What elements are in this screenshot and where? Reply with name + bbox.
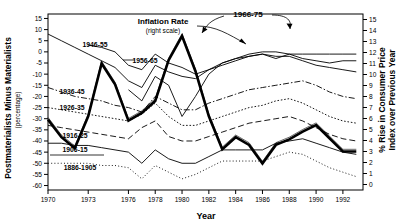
y-tick-label-right: 10	[369, 71, 377, 78]
y-tick-label-left: -60	[32, 182, 42, 189]
y-tick-label-left: -10	[32, 71, 42, 78]
y-axis-left: 151050-5-10-15-20-25-30-35-40-45-50-55-6…	[32, 15, 48, 189]
y-tick-label-left: -15	[32, 82, 42, 89]
y-tick-label-left: -35	[32, 126, 42, 133]
y-tick-label-left: -50	[32, 160, 42, 167]
x-tick-label: 1982	[202, 196, 217, 203]
y-tick-label-left: 5	[38, 37, 42, 44]
series-labels-layer: 1946-551956-651936-451926-351916-251906-…	[50, 41, 158, 171]
y-tick-label-right: 8	[369, 93, 373, 100]
x-tick-label: 1978	[148, 196, 163, 203]
inflation-rate-arrowhead-icon	[239, 39, 246, 45]
cohort-1966-75-arrow-right-icon	[272, 15, 290, 29]
inflation-rate-annotation-sublabel: (right scale)	[146, 27, 180, 35]
annotations-layer: Inflation Rate (right scale) 1966-75	[138, 10, 293, 44]
y-tick-label-left: -25	[32, 104, 42, 111]
x-tick-label: 1990	[309, 196, 324, 203]
series-line-1906-15	[48, 139, 356, 164]
cohort-1966-75-annotation-label: 1966-75	[233, 10, 263, 19]
x-tick-label: 1973	[81, 196, 96, 203]
x-tick-label: 1976	[121, 196, 136, 203]
series-label-1916-25: 1916-25	[63, 132, 88, 139]
x-tick-label: 1970	[41, 196, 56, 203]
series-label-1886-1905: 1886-1905	[64, 164, 97, 171]
y-axis-left-subtitle: (percentage)	[14, 92, 22, 129]
series-label-1936-45: 1936-45	[60, 88, 85, 95]
cohort-1966-75-arrowhead-right-icon	[287, 24, 293, 30]
y-tick-label-left: 0	[38, 48, 42, 55]
series-label-1906-15: 1906-15	[63, 146, 88, 153]
x-tick-label: 1988	[282, 196, 297, 203]
y-tick-label-right: 14	[369, 27, 377, 34]
x-tick-label: 1986	[255, 196, 270, 203]
y-tick-label-right: 5	[369, 126, 373, 133]
x-axis: 1970197319761978198019821984198619881990…	[41, 190, 351, 203]
y-tick-label-right: 0	[369, 181, 373, 188]
y-tick-label-left: 10	[35, 26, 43, 33]
series-label-1946-55: 1946-55	[83, 41, 108, 48]
y-tick-label-right: 2	[369, 159, 373, 166]
y-tick-label-right: 12	[369, 49, 377, 56]
series-line-1926-35	[48, 99, 356, 126]
y-tick-label-left: 15	[35, 15, 43, 22]
y-tick-label-left: -40	[32, 137, 42, 144]
chart-canvas: 151050-5-10-15-20-25-30-35-40-45-50-55-6…	[0, 0, 404, 224]
y-tick-label-right: 13	[369, 38, 377, 45]
inflation-rate-annotation-label: Inflation Rate	[138, 17, 189, 26]
x-tick-label: 1984	[228, 196, 243, 203]
y-axis-right-title-line1: % Rise in Consumer Price	[377, 47, 387, 153]
x-tick-label: 1980	[175, 196, 190, 203]
cohort-1966-75-arrowhead-left-icon	[202, 27, 208, 34]
y-tick-label-left: -5	[36, 59, 42, 66]
y-tick-label-right: 3	[369, 148, 373, 155]
y-tick-label-right: 4	[369, 137, 373, 144]
y-tick-label-right: 11	[369, 60, 376, 67]
series-layer	[48, 34, 356, 179]
y-tick-label-right: 1	[369, 170, 373, 177]
series-label-1956-65: 1956-65	[133, 57, 158, 64]
y-tick-label-left: -55	[32, 171, 42, 178]
y-tick-label-left: -20	[32, 93, 42, 100]
y-tick-label-right: 7	[369, 104, 373, 111]
chart-figure: 151050-5-10-15-20-25-30-35-40-45-50-55-6…	[0, 0, 404, 224]
y-axis-right: 0123456789101112131415	[363, 16, 377, 188]
y-axis-right-title-line2: Index over Previous Year	[387, 49, 397, 151]
x-axis-title: Year	[196, 211, 216, 221]
x-tick-label: 1992	[336, 196, 351, 203]
y-tick-label-right: 9	[369, 82, 373, 89]
y-tick-label-right: 6	[369, 115, 373, 122]
series-label-1926-35: 1926-35	[60, 104, 85, 111]
y-tick-label-right: 15	[369, 16, 377, 23]
y-tick-label-left: -45	[32, 149, 42, 156]
y-tick-label-left: -30	[32, 115, 42, 122]
y-axis-left-title: Postmaterialists Minus Materialists	[3, 37, 13, 179]
